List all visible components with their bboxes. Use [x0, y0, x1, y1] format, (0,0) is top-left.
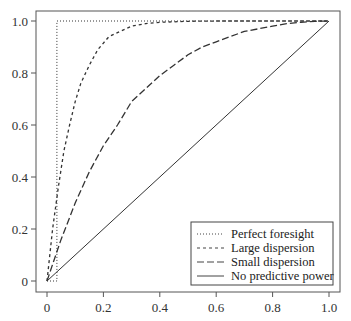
- x-tick-label: 0.6: [208, 300, 225, 315]
- legend-label: No predictive power: [231, 269, 335, 283]
- x-tick-label: 0.4: [152, 300, 169, 315]
- y-axis: 00.20.40.60.81.0: [12, 14, 36, 289]
- x-tick-label: 0: [44, 300, 51, 315]
- x-tick-label: 1.0: [321, 300, 337, 315]
- y-tick-label: 1.0: [12, 14, 28, 29]
- legend: Perfect foresight Large dispersion Small…: [191, 222, 335, 285]
- roc-chart: 00.20.40.60.81.0 00.20.40.60.81.0 Perfec…: [0, 0, 351, 321]
- y-tick-label: 0.6: [12, 118, 29, 133]
- x-axis: 00.20.40.60.81.0: [44, 292, 337, 315]
- x-tick-label: 0.8: [264, 300, 280, 315]
- x-tick-label: 0.2: [95, 300, 111, 315]
- legend-label: Perfect foresight: [231, 227, 314, 241]
- legend-label: Small dispersion: [231, 255, 315, 269]
- y-tick-label: 0: [22, 274, 29, 289]
- y-tick-label: 0.8: [12, 66, 28, 81]
- legend-label: Large dispersion: [231, 241, 315, 255]
- y-tick-label: 0.4: [12, 170, 29, 185]
- y-tick-label: 0.2: [12, 222, 28, 237]
